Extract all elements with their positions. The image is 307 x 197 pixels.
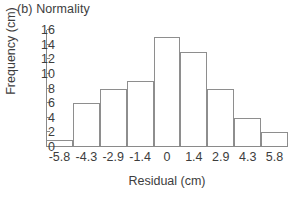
y-tick-label: 8 <box>33 83 55 95</box>
y-tick-label: 12 <box>33 53 55 65</box>
histogram-bar <box>100 89 126 147</box>
y-tick-label: 16 <box>33 24 55 36</box>
histogram-bar <box>262 133 288 147</box>
histogram-bar <box>235 118 261 146</box>
histogram-bar <box>181 52 207 146</box>
y-tick-label: 14 <box>33 39 55 51</box>
histogram-bar <box>154 38 180 147</box>
y-tick-label: 6 <box>33 97 55 109</box>
y-axis-title: Frequency (cm) <box>4 0 18 106</box>
histogram-bar <box>127 82 153 147</box>
plot-area <box>46 30 288 147</box>
bars-group <box>47 38 288 147</box>
histogram-figure: (b) Normality Frequency (cm) 02468101214… <box>0 0 307 197</box>
y-tick-label: 4 <box>33 112 55 124</box>
panel-title: (b) Normality <box>17 2 90 16</box>
y-tick-label: 10 <box>33 68 55 80</box>
histogram-bar <box>208 89 234 147</box>
plot-svg <box>46 30 288 147</box>
x-tick-label: 5.8 <box>255 151 295 164</box>
x-axis-title: Residual (cm) <box>46 174 288 188</box>
histogram-bar <box>73 104 99 147</box>
y-tick-label: 2 <box>33 126 55 138</box>
